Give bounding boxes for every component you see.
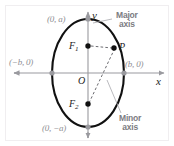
ellipse-diagram-graphic bbox=[0, 0, 174, 146]
minor-axis-line-2: axis bbox=[119, 123, 141, 132]
origin-label: O bbox=[78, 76, 85, 86]
segment-f1-p bbox=[91, 46, 112, 48]
point-p-label: P bbox=[119, 42, 125, 52]
point-p-marker bbox=[111, 45, 116, 50]
focus-upper-label: F1 bbox=[69, 41, 78, 53]
vertex-top-marker bbox=[85, 16, 90, 21]
vertex-top-label: (0, a) bbox=[47, 15, 65, 24]
major-axis-line-2: axis bbox=[116, 20, 138, 29]
vertex-bottom-marker bbox=[85, 124, 90, 129]
focus-lower-marker bbox=[85, 101, 90, 106]
focus-lower-label: F2 bbox=[69, 99, 78, 111]
vertex-right-label: (b, 0) bbox=[125, 60, 143, 69]
vertex-left-marker bbox=[49, 70, 54, 75]
vertex-right-marker bbox=[121, 70, 126, 75]
minor-axis-annotation: Minor axis bbox=[119, 114, 141, 132]
focus-upper-subscript: 1 bbox=[75, 45, 78, 53]
vertex-left-label: (−b, 0) bbox=[9, 58, 33, 67]
leader-minor-axis bbox=[107, 80, 121, 113]
focus-lower-subscript: 2 bbox=[75, 103, 78, 111]
y-axis-label: y bbox=[92, 10, 97, 21]
ellipse-figure: (0, a) (0, −a) (−b, 0) (b, 0) O x y F1 F… bbox=[0, 0, 174, 146]
segment-f2-p bbox=[89, 50, 114, 103]
focus-upper-marker bbox=[85, 43, 90, 48]
vertex-bottom-label: (0, −a) bbox=[42, 124, 66, 133]
major-axis-annotation: Major axis bbox=[116, 11, 138, 29]
x-axis-label: x bbox=[156, 76, 161, 87]
